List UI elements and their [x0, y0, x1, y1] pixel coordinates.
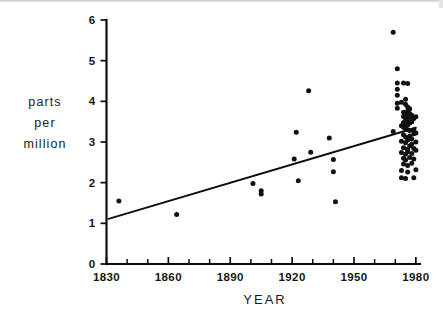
y-tick-label-1: 1 — [89, 217, 96, 229]
data-point — [405, 170, 410, 175]
data-point — [403, 97, 408, 102]
data-point — [331, 169, 336, 174]
x-tick-label-1860: 1860 — [155, 271, 182, 283]
data-point — [407, 106, 412, 111]
y-axis-title: parts per million — [23, 95, 66, 151]
data-point — [308, 150, 313, 155]
y-axis-tick-labels: 0123456 — [89, 14, 96, 270]
data-point — [296, 178, 301, 183]
regression-trend-line — [109, 128, 416, 219]
data-point — [405, 81, 410, 86]
y-tick-label-6: 6 — [89, 14, 96, 26]
data-point — [395, 81, 400, 86]
data-point — [174, 212, 179, 217]
y-tick-label-4: 4 — [89, 95, 96, 107]
data-point — [413, 167, 418, 172]
data-point — [294, 130, 299, 135]
data-point — [399, 175, 404, 180]
x-tick-label-1950: 1950 — [340, 271, 367, 283]
x-tick-label-1920: 1920 — [279, 271, 306, 283]
y-tick-label-5: 5 — [89, 55, 96, 67]
data-point — [327, 135, 332, 140]
x-axis-tick-labels: 183018601890192019501980 — [93, 271, 430, 283]
figure-container: 0123456 183018601890192019501980 parts p… — [0, 0, 443, 319]
data-point — [395, 66, 400, 71]
y-axis-title-line-3: million — [23, 137, 66, 151]
x-tick-label-1890: 1890 — [217, 271, 244, 283]
data-point — [395, 93, 400, 98]
scan-edge-artifact — [0, 0, 443, 3]
x-tick-label-1830: 1830 — [93, 271, 120, 283]
data-point — [407, 128, 412, 133]
data-point — [333, 199, 338, 204]
data-point — [405, 137, 410, 142]
x-axis-title: YEAR — [243, 292, 286, 307]
data-point — [116, 198, 121, 203]
data-point — [250, 181, 255, 186]
x-axis: 183018601890192019501980 — [93, 257, 430, 283]
x-tick-label-1980: 1980 — [402, 271, 429, 283]
data-point — [411, 175, 416, 180]
data-point — [413, 148, 418, 153]
y-tick-label-3: 3 — [89, 136, 96, 148]
y-axis: 0123456 — [89, 14, 107, 270]
data-point — [306, 88, 311, 93]
data-point — [292, 157, 297, 162]
y-tick-label-0: 0 — [89, 258, 96, 270]
data-point — [259, 192, 264, 197]
data-point — [413, 114, 418, 119]
y-axis-title-line-1: parts — [28, 95, 61, 109]
data-point — [403, 176, 408, 181]
data-point — [409, 161, 414, 166]
data-point — [331, 157, 336, 162]
data-point — [409, 119, 414, 124]
scan-edge-corner-artifact — [439, 0, 443, 8]
data-point — [411, 131, 416, 136]
data-point — [413, 140, 418, 145]
data-point — [391, 129, 396, 134]
data-points — [116, 30, 418, 217]
data-point — [391, 30, 396, 35]
data-point — [395, 106, 400, 111]
y-tick-label-2: 2 — [89, 177, 96, 189]
data-point — [399, 168, 404, 173]
data-point — [395, 87, 400, 92]
scatter-plot-canvas: 0123456 183018601890192019501980 parts p… — [0, 0, 443, 319]
y-axis-title-line-2: per — [34, 116, 55, 130]
